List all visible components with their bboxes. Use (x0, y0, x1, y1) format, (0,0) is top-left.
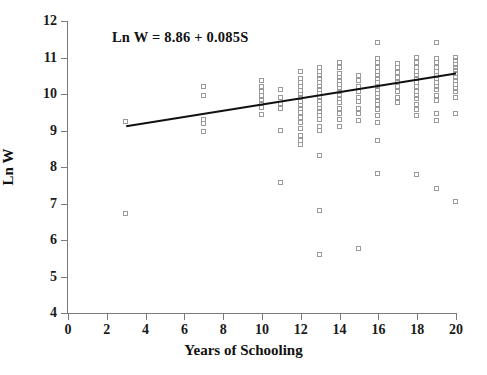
y-axis-title: Ln W (0, 149, 17, 186)
x-axis-tick-label: 0 (65, 322, 72, 338)
x-axis-tick-label: 20 (449, 322, 463, 338)
y-axis-tick (61, 277, 68, 278)
y-axis-tick (61, 21, 68, 22)
y-axis-tick-label: 7 (50, 196, 57, 212)
y-axis-tick (61, 131, 68, 132)
x-axis-tick (378, 313, 379, 320)
x-axis-tick (107, 313, 108, 320)
x-axis-tick (68, 313, 69, 320)
x-axis-tick-label: 4 (142, 322, 149, 338)
y-axis-tick (61, 94, 68, 95)
x-axis-tick-label: 6 (181, 322, 188, 338)
x-axis-tick-label: 14 (333, 322, 347, 338)
regression-line-layer (68, 21, 456, 313)
x-axis-tick (301, 313, 302, 320)
y-axis-tick (61, 58, 68, 59)
x-axis-tick (184, 313, 185, 320)
x-axis-tick-label: 16 (371, 322, 385, 338)
x-axis-tick (417, 313, 418, 320)
y-axis-tick (61, 167, 68, 168)
x-axis-tick-label: 8 (220, 322, 227, 338)
y-axis-tick-label: 11 (44, 50, 57, 66)
plot-area: 45678910111202468101214161820 (67, 21, 456, 314)
y-axis-tick-label: 9 (50, 123, 57, 139)
x-axis-tick-label: 2 (103, 322, 110, 338)
regression-line (126, 74, 456, 127)
y-axis-tick (61, 313, 68, 314)
x-axis-title: Years of Schooling (0, 342, 487, 359)
y-axis-tick-label: 8 (50, 159, 57, 175)
y-axis-tick-label: 10 (43, 86, 57, 102)
y-axis-tick-label: 5 (50, 269, 57, 285)
y-axis-tick (61, 204, 68, 205)
x-axis-tick-label: 12 (294, 322, 308, 338)
x-axis-tick (223, 313, 224, 320)
y-axis-tick-label: 6 (50, 232, 57, 248)
x-axis-tick-label: 18 (410, 322, 424, 338)
x-axis-tick (340, 313, 341, 320)
y-axis-tick-label: 4 (50, 305, 57, 321)
x-axis-tick (262, 313, 263, 320)
x-axis-tick (456, 313, 457, 320)
y-axis-tick-label: 12 (43, 13, 57, 29)
x-axis-tick (146, 313, 147, 320)
y-axis-tick (61, 240, 68, 241)
x-axis-tick-label: 10 (255, 322, 269, 338)
scatter-plot-figure: Ln W = 8.86 + 0.085S Ln W Years of Schoo… (0, 0, 487, 375)
